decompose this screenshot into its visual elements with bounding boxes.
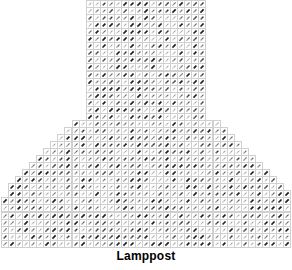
lamppost-figure: Lamppost xyxy=(0,0,292,270)
figure-caption: Lamppost xyxy=(0,249,292,263)
grid-cell xyxy=(283,240,291,248)
arrow-icon xyxy=(284,241,290,247)
quiver-plot-area xyxy=(0,0,292,248)
